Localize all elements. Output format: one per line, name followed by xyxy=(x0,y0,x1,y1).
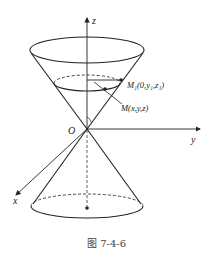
m1-label: M₁(0,y₁,z₁) xyxy=(126,80,164,90)
x-axis xyxy=(16,129,87,195)
z-axis-label: z xyxy=(91,15,96,26)
x-axis-label: x xyxy=(12,195,18,206)
figure-caption: 图 7-4-6 xyxy=(0,235,213,250)
origin-label: O xyxy=(68,125,75,136)
y-axis-label: y xyxy=(190,134,196,145)
m-label: M(x,y,z) xyxy=(120,103,149,113)
double-cone-diagram: z y x O M₁(0,y₁,z₁) M(x,y,z) xyxy=(0,0,213,257)
point-m1 xyxy=(119,78,123,82)
